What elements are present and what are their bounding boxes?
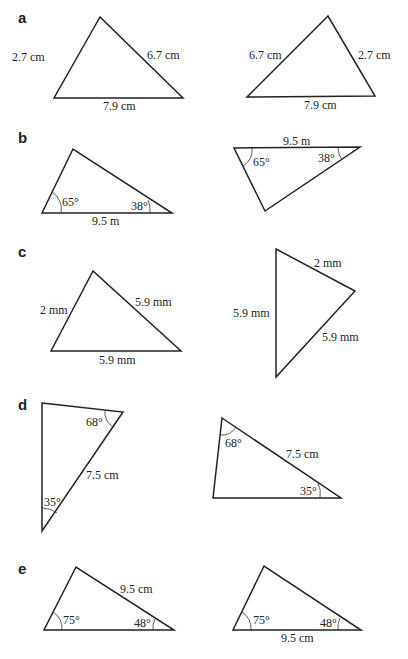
- side-label: 2 mm: [40, 303, 68, 317]
- side-label: 2.7 cm: [358, 48, 391, 62]
- angle-label: 68°: [225, 436, 242, 450]
- triangle-b-left: 65° 38° 9.5 m: [42, 149, 172, 228]
- triangle-a-left: 2.7 cm 6.7 cm 7.9 cm: [12, 17, 183, 113]
- part-b: b 65° 38° 9.5 m 65° 38° 9.5 m: [18, 129, 360, 228]
- side-label: 5.9 mm: [233, 306, 270, 320]
- part-a-letter: a: [18, 9, 27, 26]
- angle-label: 35°: [44, 495, 61, 509]
- angle-arc: [242, 612, 251, 630]
- angle-label: 68°: [86, 415, 103, 429]
- side-label: 7.5 cm: [286, 447, 319, 461]
- angle-arc: [318, 483, 320, 498]
- side-label: 6.7 cm: [147, 48, 180, 62]
- part-a: a 2.7 cm 6.7 cm 7.9 cm 6.7 cm 2.7 cm 7.9…: [12, 9, 391, 113]
- side-label: 5.9 mm: [99, 353, 136, 367]
- angle-label: 75°: [253, 613, 270, 627]
- angle-arc: [52, 192, 61, 213]
- part-d: d 68° 35° 7.5 cm 68° 35° 7.5 cm: [18, 396, 341, 531]
- side-label: 7.9 cm: [304, 98, 337, 112]
- part-c-letter: c: [18, 243, 26, 260]
- angle-label: 48°: [320, 616, 337, 630]
- angle-label: 48°: [134, 616, 151, 630]
- side-label: 2 mm: [314, 256, 342, 270]
- triangle-b-right: 65° 38° 9.5 m: [234, 134, 360, 211]
- triangle-e-left: 75° 48° 9.5 cm: [44, 567, 174, 630]
- angle-label: 75°: [63, 613, 80, 627]
- side-label: 7.5 cm: [86, 468, 119, 482]
- angle-arc: [220, 427, 236, 435]
- side-label: 9.5 cm: [281, 631, 314, 645]
- triangle-d-left: 68° 35° 7.5 cm: [42, 403, 123, 531]
- triangle-d-right: 68° 35° 7.5 cm: [213, 418, 341, 498]
- side-label: 6.7 cm: [249, 48, 282, 62]
- triangle-c-left: 2 mm 5.9 mm 5.9 mm: [40, 271, 181, 367]
- triangle-a-right: 6.7 cm 2.7 cm 7.9 cm: [247, 16, 391, 112]
- part-b-letter: b: [18, 129, 27, 146]
- angle-label: 38°: [318, 151, 335, 165]
- side-label: 9.5 m: [92, 214, 120, 228]
- side-label: 2.7 cm: [12, 50, 45, 64]
- angle-label: 38°: [131, 199, 148, 213]
- triangle-worksheet: a 2.7 cm 6.7 cm 7.9 cm 6.7 cm 2.7 cm 7.9…: [0, 0, 408, 659]
- side-label: 5.9 mm: [322, 330, 359, 344]
- triangles-figure: a 2.7 cm 6.7 cm 7.9 cm 6.7 cm 2.7 cm 7.9…: [0, 0, 408, 659]
- triangle-d-right-shape: [213, 418, 341, 498]
- triangle-e-right: 75° 48° 9.5 cm: [233, 566, 361, 645]
- angle-label: 65°: [62, 195, 79, 209]
- side-label: 9.5 m: [283, 134, 311, 148]
- angle-arc: [53, 612, 62, 630]
- triangle-c-left-shape: [51, 271, 181, 351]
- angle-arc: [338, 618, 340, 630]
- angle-arc: [338, 148, 342, 160]
- part-d-letter: d: [18, 396, 27, 413]
- angle-label: 65°: [253, 155, 270, 169]
- part-e: e 75° 48° 9.5 cm 75° 48° 9.5 cm: [18, 560, 361, 645]
- angle-arc: [243, 148, 252, 166]
- angle-arc: [148, 200, 150, 213]
- angle-arc: [105, 410, 113, 427]
- angle-label: 35°: [300, 484, 317, 498]
- part-e-letter: e: [18, 560, 26, 577]
- part-c: c 2 mm 5.9 mm 5.9 mm 2 mm 5.9 mm 5.9 mm: [18, 243, 359, 377]
- triangle-c-right: 2 mm 5.9 mm 5.9 mm: [233, 249, 359, 377]
- angle-arc: [153, 619, 155, 630]
- side-label: 7.9 cm: [103, 99, 136, 113]
- triangle-d-left-shape: [42, 403, 123, 531]
- side-label: 9.5 cm: [120, 582, 153, 596]
- side-label: 5.9 mm: [135, 295, 172, 309]
